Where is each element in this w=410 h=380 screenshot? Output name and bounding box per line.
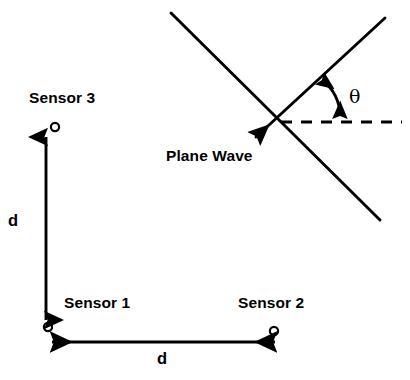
- sensor-marker-sensor-1: [44, 323, 52, 331]
- plane-wave-sensor-array-diagram: Sensor 3 Sensor 1 Sensor 2 Plane Wave d …: [0, 0, 410, 380]
- distance-label-vertical: d: [8, 212, 18, 229]
- wavefront-line: [171, 13, 380, 220]
- plane-wave-label: Plane Wave: [166, 148, 253, 164]
- sensor-1-label: Sensor 1: [64, 295, 130, 311]
- sensor-marker-sensor-2: [270, 327, 278, 335]
- propagation-direction-ray: [256, 18, 385, 137]
- sensor-3-label: Sensor 3: [29, 90, 95, 106]
- diagram-canvas: [0, 0, 410, 380]
- distance-label-horizontal: d: [157, 350, 167, 367]
- sensor-marker-sensor-3: [51, 123, 59, 131]
- sensor-2-label: Sensor 2: [238, 295, 304, 311]
- theta-angle-label: θ: [349, 87, 360, 106]
- angle-arc-theta: [322, 80, 340, 116]
